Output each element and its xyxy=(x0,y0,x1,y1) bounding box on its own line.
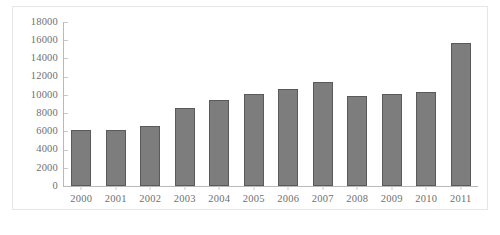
x-axis-tick-mark xyxy=(391,186,392,190)
x-axis-tick-label: 2001 xyxy=(105,193,127,204)
y-axis-tick-label: 18000 xyxy=(31,17,64,28)
bar-group: 2009 xyxy=(375,22,410,186)
x-axis-tick-label: 2003 xyxy=(174,193,196,204)
x-axis-tick-label: 2005 xyxy=(243,193,265,204)
bar-group: 2011 xyxy=(444,22,479,186)
y-axis-tick-label: 10000 xyxy=(31,90,64,101)
y-axis-tick-label: 2000 xyxy=(36,163,64,174)
x-axis-tick-mark xyxy=(357,186,358,190)
y-axis-tick-label: 4000 xyxy=(36,144,64,155)
caption-strip xyxy=(0,226,500,235)
x-axis-tick-label: 2006 xyxy=(277,193,299,204)
y-axis-tick-mark xyxy=(64,40,68,41)
bar xyxy=(313,82,333,186)
bar xyxy=(278,89,298,186)
y-axis-tick-mark xyxy=(64,168,68,169)
y-axis-tick-label: 0 xyxy=(53,181,64,192)
plot-area: 2000200120022003200420052006200720082009… xyxy=(63,22,478,187)
bar-chart-figure: 2000200120022003200420052006200720082009… xyxy=(0,0,500,235)
bar xyxy=(140,126,160,186)
x-axis-tick-mark xyxy=(81,186,82,190)
bars-layer: 2000200120022003200420052006200720082009… xyxy=(64,22,478,186)
x-axis-tick-mark xyxy=(184,186,185,190)
bar xyxy=(347,96,367,186)
x-axis-tick-label: 2007 xyxy=(312,193,334,204)
bar xyxy=(209,100,229,186)
bar-group: 2003 xyxy=(168,22,203,186)
bar-group: 2008 xyxy=(340,22,375,186)
x-axis-tick-mark xyxy=(288,186,289,190)
bar xyxy=(106,130,126,186)
x-axis-tick-mark xyxy=(426,186,427,190)
bar-group: 2010 xyxy=(409,22,444,186)
bar xyxy=(451,43,471,186)
x-axis-tick-label: 2010 xyxy=(415,193,437,204)
x-axis-tick-label: 2002 xyxy=(139,193,161,204)
x-axis-tick-label: 2009 xyxy=(381,193,403,204)
bar xyxy=(71,130,91,186)
bar-group: 2007 xyxy=(306,22,341,186)
bar-group: 2006 xyxy=(271,22,306,186)
y-axis-tick-mark xyxy=(64,113,68,114)
x-axis-tick-mark xyxy=(322,186,323,190)
x-axis-tick-mark xyxy=(219,186,220,190)
bar xyxy=(416,92,436,186)
bar-group: 2004 xyxy=(202,22,237,186)
bar-group: 2002 xyxy=(133,22,168,186)
bar-group: 2000 xyxy=(64,22,99,186)
y-axis-tick-label: 8000 xyxy=(36,108,64,119)
bar xyxy=(244,94,264,186)
y-axis-tick-mark xyxy=(64,150,68,151)
x-axis-tick-label: 2011 xyxy=(450,193,471,204)
bar xyxy=(382,94,402,186)
x-axis-tick-mark xyxy=(150,186,151,190)
bar-group: 2001 xyxy=(99,22,134,186)
y-axis-tick-mark xyxy=(64,58,68,59)
x-axis-tick-label: 2004 xyxy=(208,193,230,204)
y-axis-tick-label: 14000 xyxy=(31,53,64,64)
y-axis-tick-label: 6000 xyxy=(36,126,64,137)
bar xyxy=(175,108,195,186)
x-axis-tick-label: 2008 xyxy=(346,193,368,204)
y-axis-tick-mark xyxy=(64,95,68,96)
y-axis-tick-mark xyxy=(64,131,68,132)
bar-group: 2005 xyxy=(237,22,272,186)
x-axis-tick-mark xyxy=(253,186,254,190)
y-axis-tick-mark xyxy=(64,77,68,78)
x-axis-tick-mark xyxy=(460,186,461,190)
y-axis-tick-mark xyxy=(64,22,68,23)
y-axis-tick-label: 12000 xyxy=(31,71,64,82)
y-axis-tick-label: 16000 xyxy=(31,35,64,46)
x-axis-tick-mark xyxy=(115,186,116,190)
x-axis-tick-label: 2000 xyxy=(70,193,92,204)
